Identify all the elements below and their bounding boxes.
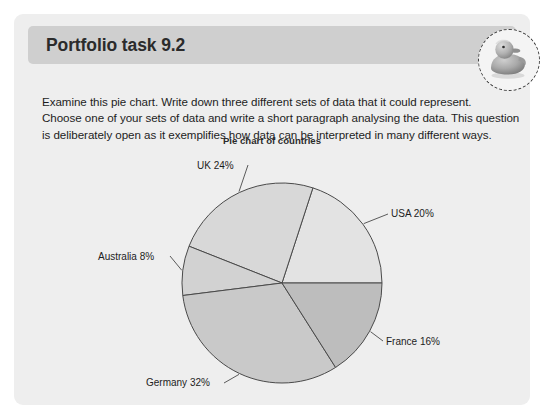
pie-label-usa: USA 20% [391, 208, 434, 219]
page-title: Portfolio task 9.2 [46, 35, 185, 56]
pie-label-australia: Australia 8% [98, 251, 154, 262]
rubber-duck-icon [478, 29, 540, 91]
task-instructions-line: Choose one of your sets of data and writ… [42, 110, 512, 126]
task-instructions-line: Examine this pie chart. Write down three… [42, 94, 512, 110]
pie-label-uk: UK 24% [197, 160, 234, 171]
pie-label-germany: Germany 32% [146, 377, 210, 388]
pie-label-france: France 16% [386, 336, 440, 347]
portfolio-task-card: Portfolio task 9.2 [14, 14, 530, 405]
chart-title: Pie chart of countries [0, 135, 544, 146]
